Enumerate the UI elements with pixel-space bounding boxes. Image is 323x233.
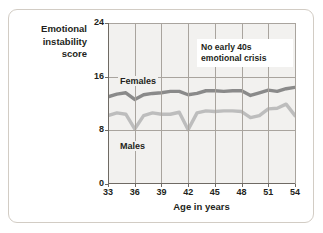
- y-tick-label-8: 8: [82, 124, 104, 134]
- gridline-x-42: [188, 23, 189, 184]
- y-axis-tick-labels: 081624: [80, 23, 104, 184]
- x-tick-label-39: 39: [148, 187, 174, 197]
- gridline-x-54: [295, 23, 296, 184]
- x-axis-title: Age in years: [108, 201, 295, 212]
- x-tick-label-51: 51: [255, 187, 281, 197]
- x-tick-label-54: 54: [282, 187, 308, 197]
- plot-top-spine: [108, 23, 295, 24]
- gridline-x-36: [135, 23, 136, 184]
- y-axis-title-line-2: instability: [19, 36, 87, 49]
- chart-annotation-line-2: emotional crisis: [201, 53, 289, 64]
- gridline-x-39: [161, 23, 162, 184]
- x-tick-label-42: 42: [175, 187, 201, 197]
- x-tick-label-45: 45: [202, 187, 228, 197]
- chart-annotation-line-1: No early 40s: [201, 42, 289, 53]
- series-line-males: [108, 104, 295, 129]
- chart-annotation: No early 40s emotional crisis: [197, 39, 293, 67]
- series-label-males: Males: [118, 141, 147, 151]
- y-tick-label-24: 24: [82, 17, 104, 27]
- plot-left-spine: [108, 23, 109, 184]
- x-tick-label-36: 36: [122, 187, 148, 197]
- x-tick-label-48: 48: [229, 187, 255, 197]
- plot-area: Females Males No early 40s emotional cri…: [108, 23, 295, 184]
- series-label-females: Females: [118, 76, 158, 86]
- y-tick-label-16: 16: [82, 71, 104, 81]
- x-axis-tick-labels: 3336394245485154: [108, 187, 295, 201]
- gridline-y-8: [108, 130, 295, 131]
- figure-card: Emotional instability score 081624 Femal…: [8, 9, 314, 223]
- y-axis-title: Emotional instability score: [19, 23, 87, 61]
- y-axis-title-line-3: score: [19, 48, 87, 61]
- y-axis-title-line-1: Emotional: [19, 23, 87, 36]
- series-line-females: [108, 87, 295, 99]
- x-tick-label-33: 33: [95, 187, 121, 197]
